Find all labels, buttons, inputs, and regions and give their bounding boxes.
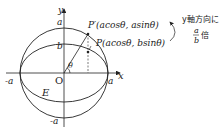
origin-label: O xyxy=(55,75,63,86)
point-p-prime-label: P′(acosθ, asinθ) xyxy=(87,20,159,30)
diagram-canvas: y x O a b -a a -a E θ P′(acosθ, asinθ) P… xyxy=(0,0,224,129)
scale-arrow xyxy=(170,22,175,41)
circle-top-label: a xyxy=(57,17,62,27)
annotation-text: y軸方向に xyxy=(182,14,219,24)
point-p-label: P(acosθ, bsinθ) xyxy=(95,38,166,48)
y-axis-label: y xyxy=(57,5,64,15)
point-p-prime xyxy=(87,33,90,36)
angle-label: θ xyxy=(68,61,73,70)
circle-right-label: a xyxy=(108,76,113,86)
circle-bottom-label: -a xyxy=(50,116,58,126)
point-p xyxy=(87,51,90,54)
ellipse-top-label: b xyxy=(57,41,63,51)
fraction-numerator: a xyxy=(194,26,199,35)
x-axis-label: x xyxy=(118,70,124,81)
annotation-suffix: 倍 xyxy=(201,30,209,40)
ellipse-name-label: E xyxy=(41,87,50,98)
circle-left-label: -a xyxy=(5,76,13,86)
fraction-denominator: b xyxy=(194,36,199,45)
ellipse-circle-diagram: y x O a b -a a -a E θ P′(acosθ, asinθ) P… xyxy=(0,0,224,129)
